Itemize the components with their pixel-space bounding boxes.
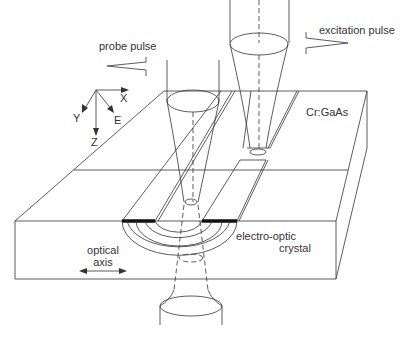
transmission-lines [122,91,299,221]
diagram-canvas: X Y Z E probe pulse excitation pulse Cr:… [0,0,403,339]
axis-e-label: E [114,114,121,126]
probe-beam [160,60,222,325]
axis-x-label: X [120,92,128,104]
crystal-block [15,91,367,279]
axis-z-label: Z [91,136,98,148]
crystal-label-line2: crystal [279,242,311,254]
optical-axis-arrow [79,268,127,274]
excitation-pulse-label: excitation pulse [319,24,395,36]
optical-axis-label-line1: optical [87,244,119,256]
field-lines [122,221,237,255]
optical-axis-label-line2: axis [93,256,113,268]
probe-pulse-shape [107,57,146,76]
excitation-beam [230,0,289,155]
probe-pulse-label: probe pulse [99,40,157,52]
substrate-label: Cr:GaAs [306,106,349,118]
crystal-label-line1: electro-optic [236,230,296,242]
axis-y-label: Y [73,112,81,124]
